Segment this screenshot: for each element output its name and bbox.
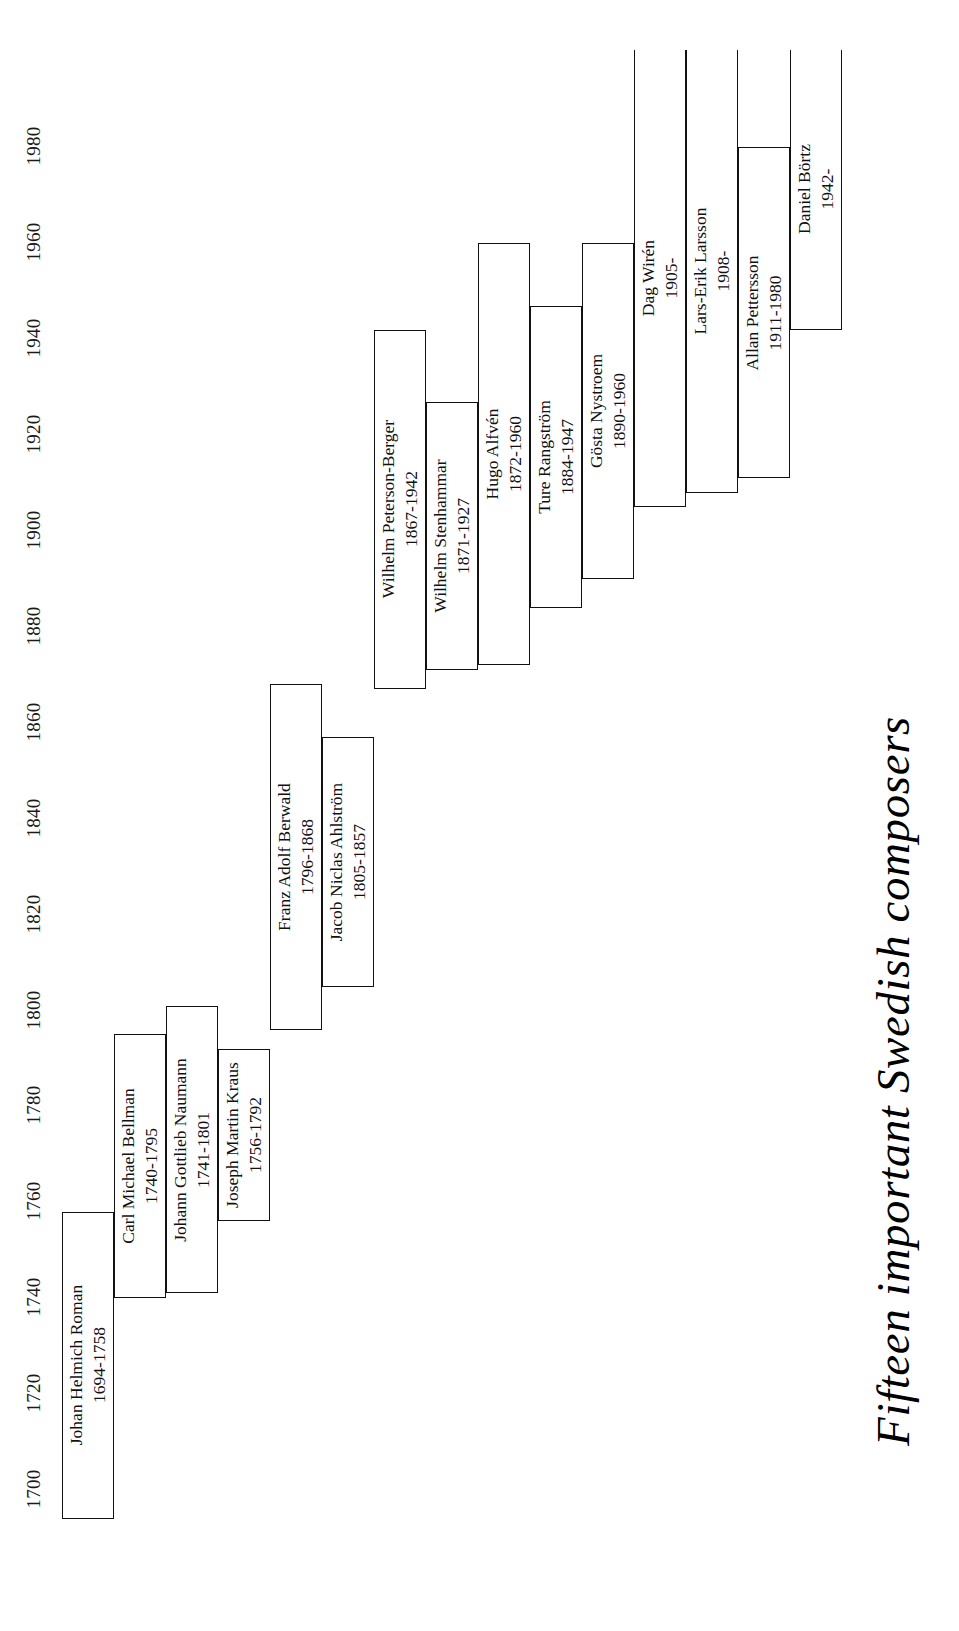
composer-name: Jacob Niclas Ahlström xyxy=(325,783,348,941)
composer-bar[interactable]: Dag Wirén1905- xyxy=(634,50,686,507)
axis-tick-1720: 1720 xyxy=(23,1358,45,1428)
composer-label: Franz Adolf Berwald1796-1868 xyxy=(273,783,319,931)
composer-label: Ture Rangström1884-1947 xyxy=(533,400,579,514)
composer-name: Ture Rangström xyxy=(533,400,556,514)
composer-bar[interactable]: Wilhelm Stenhammar1871-1927 xyxy=(426,402,478,671)
axis-tick-1940: 1940 xyxy=(23,303,45,373)
composer-name: Lars-Erik Larsson xyxy=(689,207,712,334)
composer-years: 1890-1960 xyxy=(608,354,631,468)
composer-label: Wilhelm Peterson-Berger1867-1942 xyxy=(377,420,423,598)
composer-label: Lars-Erik Larsson1908- xyxy=(689,207,735,334)
composer-bar[interactable]: Johann Gottlieb Naumann1741-1801 xyxy=(166,1006,218,1294)
composer-label: Joseph Martin Kraus1756-1792 xyxy=(221,1062,267,1208)
composer-years: 1942- xyxy=(816,144,839,234)
composer-bar[interactable]: Daniel Börtz1942- xyxy=(790,50,842,330)
composer-bar[interactable]: Carl Michael Bellman1740-1795 xyxy=(114,1034,166,1298)
axis-tick-1740: 1740 xyxy=(23,1262,45,1332)
composer-years: 1905- xyxy=(660,240,683,316)
axis-tick-1700: 1700 xyxy=(23,1454,45,1524)
axis-tick-1820: 1820 xyxy=(23,879,45,949)
axis-tick-1860: 1860 xyxy=(23,687,45,757)
composer-label: Allan Pettersson1911-1980 xyxy=(741,255,787,370)
composer-bar[interactable]: Ture Rangström1884-1947 xyxy=(530,306,582,608)
composer-name: Johann Gottlieb Naumann xyxy=(169,1058,192,1242)
chart-title-text: Fifteen important Swedish composers xyxy=(866,716,920,1446)
composer-label: Dag Wirén1905- xyxy=(637,240,683,316)
composer-bar[interactable]: Joseph Martin Kraus1756-1792 xyxy=(218,1049,270,1222)
composer-name: Franz Adolf Berwald xyxy=(273,783,296,931)
composer-label: Daniel Börtz1942- xyxy=(793,144,839,234)
axis-tick-1800: 1800 xyxy=(23,975,45,1045)
composer-bar[interactable]: Lars-Erik Larsson1908- xyxy=(686,50,738,493)
axis-tick-1920: 1920 xyxy=(23,399,45,469)
composer-years: 1872-1960 xyxy=(504,409,527,500)
axis-tick-1960: 1960 xyxy=(23,207,45,277)
axis-tick-1900: 1900 xyxy=(23,495,45,565)
composer-name: Dag Wirén xyxy=(637,240,660,316)
composer-years: 1805-1857 xyxy=(348,783,371,941)
composer-years: 1911-1980 xyxy=(764,255,787,370)
composer-years: 1867-1942 xyxy=(400,420,423,598)
composer-name: Allan Pettersson xyxy=(741,255,764,370)
composer-label: Jacob Niclas Ahlström1805-1857 xyxy=(325,783,371,941)
composer-name: Daniel Börtz xyxy=(793,144,816,234)
composer-years: 1796-1868 xyxy=(296,783,319,931)
composer-name: Carl Michael Bellman xyxy=(117,1089,140,1245)
chart-title: Fifteen important Swedish composers xyxy=(823,531,959,1631)
composer-years: 1871-1927 xyxy=(452,459,475,612)
composer-label: Carl Michael Bellman1740-1795 xyxy=(117,1089,163,1245)
composer-name: Joseph Martin Kraus xyxy=(221,1062,244,1208)
composer-name: Wilhelm Peterson-Berger xyxy=(377,420,400,598)
composer-years: 1756-1792 xyxy=(244,1062,267,1208)
composer-label: Hugo Alfvén1872-1960 xyxy=(481,409,527,500)
timeline-chart: 1700172017401760178018001820184018601880… xyxy=(0,0,959,1631)
composer-bar[interactable]: Allan Pettersson1911-1980 xyxy=(738,147,790,478)
composer-label: Wilhelm Stenhammar1871-1927 xyxy=(429,459,475,612)
composer-years: 1884-1947 xyxy=(556,400,579,514)
composer-bar[interactable]: Johan Helmich Roman1694-1758 xyxy=(62,1212,114,1519)
composer-label: Johan Helmich Roman1694-1758 xyxy=(65,1285,111,1445)
composer-name: Gösta Nystroem xyxy=(585,354,608,468)
composer-bar[interactable]: Wilhelm Peterson-Berger1867-1942 xyxy=(374,330,426,690)
composer-label: Johann Gottlieb Naumann1741-1801 xyxy=(169,1058,215,1242)
composer-years: 1741-1801 xyxy=(192,1058,215,1242)
composer-years: 1740-1795 xyxy=(140,1089,163,1245)
axis-tick-1840: 1840 xyxy=(23,783,45,853)
composer-years: 1694-1758 xyxy=(88,1285,111,1445)
composer-name: Johan Helmich Roman xyxy=(65,1285,88,1445)
composer-bar[interactable]: Hugo Alfvén1872-1960 xyxy=(478,243,530,665)
composer-name: Hugo Alfvén xyxy=(481,409,504,500)
axis-tick-1780: 1780 xyxy=(23,1070,45,1140)
composer-years: 1908- xyxy=(712,207,735,334)
composer-bar[interactable]: Franz Adolf Berwald1796-1868 xyxy=(270,684,322,1029)
axis-tick-1760: 1760 xyxy=(23,1166,45,1236)
composer-bar[interactable]: Gösta Nystroem1890-1960 xyxy=(582,243,634,579)
composer-name: Wilhelm Stenhammar xyxy=(429,459,452,612)
composer-label: Gösta Nystroem1890-1960 xyxy=(585,354,631,468)
composer-bar[interactable]: Jacob Niclas Ahlström1805-1857 xyxy=(322,737,374,986)
axis-tick-1880: 1880 xyxy=(23,591,45,661)
axis-tick-1980: 1980 xyxy=(23,111,45,181)
